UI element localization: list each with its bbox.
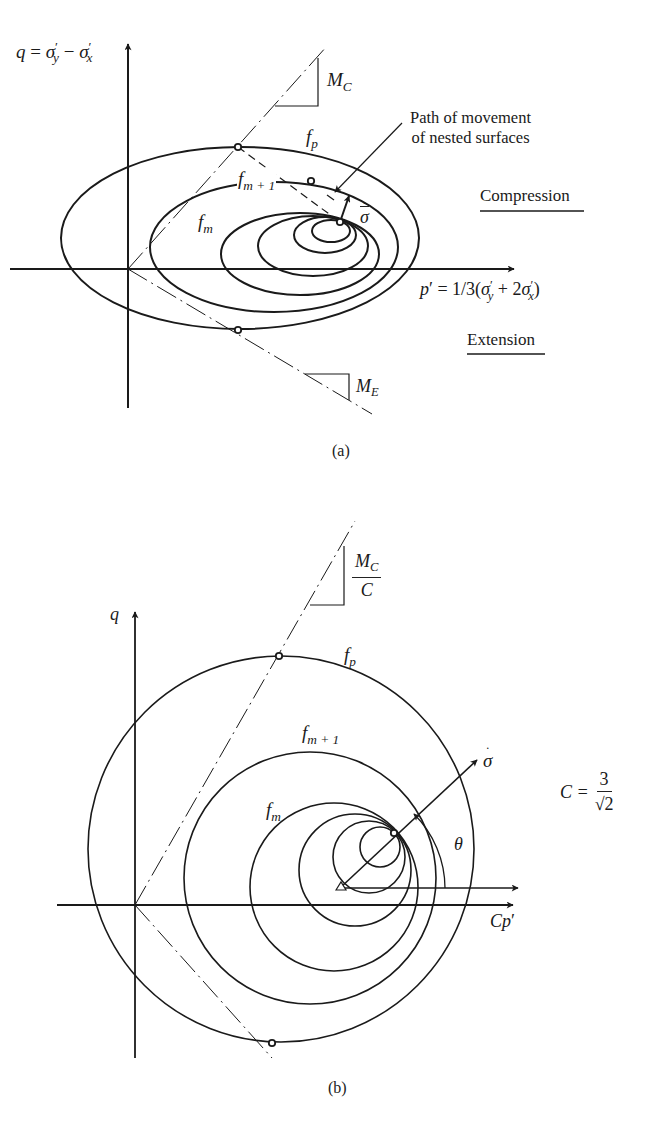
stress-rate-arrow-a bbox=[340, 196, 349, 222]
fm-label-a: fm bbox=[198, 212, 213, 235]
cp-axis-label-b: Cp′ bbox=[490, 912, 515, 930]
conjugate-point-fp-bottom-b bbox=[269, 1040, 275, 1046]
me-line-b bbox=[135, 905, 272, 1058]
fp-label-a: fp bbox=[306, 127, 318, 150]
mc-over-c-label-b: MC C bbox=[352, 552, 381, 599]
mc-slope-triangle-a bbox=[275, 58, 318, 106]
fm-label-b: fm bbox=[266, 800, 281, 823]
caption-b: (b) bbox=[328, 1080, 347, 1096]
extension-label: Extension bbox=[467, 331, 535, 348]
annotation-arrow-a bbox=[335, 123, 402, 192]
compression-label: Compression bbox=[480, 187, 570, 204]
stress-rate-arrow-b bbox=[340, 760, 477, 888]
annotation-text-a: Path of movement of nested surfaces bbox=[410, 108, 531, 148]
q-axis-label-a: q = σ′y − σ′x bbox=[16, 40, 92, 65]
yield-surface-fp-b bbox=[88, 656, 474, 1042]
p-axis-label-a: p′ = 1/3(σ′y + 2σ′x) bbox=[420, 279, 540, 302]
conjugate-point-fm1-a bbox=[308, 178, 314, 184]
fm1-label-b: fm + 1 bbox=[302, 723, 339, 746]
conjugate-point-fp-bottom-a bbox=[235, 327, 241, 333]
mc-label-a: MC bbox=[327, 70, 352, 93]
fm1-label-a: fm + 1 bbox=[237, 169, 276, 192]
figure-canvas bbox=[0, 0, 655, 1128]
c-definition-b: C = 3 √2 bbox=[560, 770, 614, 813]
nested-surface-5-a bbox=[312, 220, 350, 242]
stress-point-a bbox=[337, 219, 343, 225]
mc-slope-triangle-b bbox=[310, 546, 344, 605]
me-label-a: ME bbox=[356, 377, 379, 399]
caption-a: (a) bbox=[332, 443, 350, 459]
stress-point-b bbox=[391, 830, 397, 836]
nested-surface-4-a bbox=[294, 217, 356, 253]
theta-arc-b bbox=[414, 814, 445, 888]
mc-line-b bbox=[135, 521, 355, 905]
q-axis-label-b: q bbox=[110, 605, 119, 623]
annotation-tick-a bbox=[327, 195, 334, 200]
fp-label-b: fp bbox=[344, 645, 356, 668]
panel-a bbox=[10, 44, 584, 414]
sigma-dot-label-a: · σ bbox=[360, 200, 369, 226]
conjugate-point-fp-top-a bbox=[235, 144, 241, 150]
sigma-dot-label-b: · σ bbox=[483, 745, 492, 770]
panel-b bbox=[57, 521, 518, 1058]
conjugate-point-fp-top-b bbox=[276, 653, 282, 659]
theta-label-b: θ bbox=[454, 835, 463, 853]
